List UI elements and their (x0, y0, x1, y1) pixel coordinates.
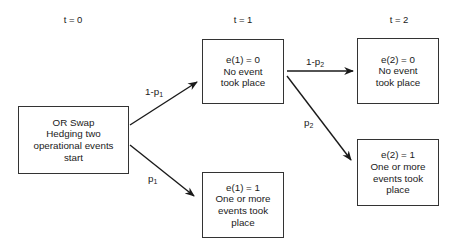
node-text-line: operational events (33, 140, 113, 152)
node-text-line: OR Swap (33, 117, 113, 129)
node-text-line: place (371, 184, 426, 196)
node-e1-0: e(1) = 0 No event took place (202, 39, 284, 104)
edge-label-sub: 2 (309, 122, 313, 129)
edge-label-p1: p1 (148, 173, 157, 185)
node-text-line: Hedging two (33, 128, 113, 140)
edge-label-1-p1: 1-p1 (145, 86, 163, 98)
node-text-line: e(1) = 0 (221, 54, 266, 66)
edge-label-sub: 1 (159, 91, 163, 98)
arrow-e1-0-to-e2-1 (287, 76, 351, 160)
node-start: OR Swap Hedging two operational events s… (18, 106, 129, 174)
node-text-line: No event (376, 65, 421, 77)
node-text-line: events took (371, 173, 426, 185)
edge-label-base: 1-p (145, 86, 159, 97)
node-text-line: start (33, 152, 113, 164)
node-text-line: e(1) = 1 (216, 182, 271, 194)
node-text-line: took place (376, 77, 421, 89)
edge-label-base: 1-p (306, 56, 320, 67)
node-e2-0: e(2) = 0 No event took place (357, 38, 439, 104)
node-text-line: One or more (371, 161, 426, 173)
arrow-start-to-e1-0 (130, 82, 197, 125)
node-text-line: place (216, 217, 271, 229)
node-text-line: e(2) = 1 (371, 149, 426, 161)
node-e2-1: e(2) = 1 One or more events took place (357, 139, 439, 206)
edge-label-1-p2: 1-p2 (306, 56, 324, 68)
arrow-start-to-e1-1 (130, 145, 194, 196)
node-text-line: took place (221, 77, 266, 89)
node-text-line: No event (221, 66, 266, 78)
node-text-line: One or more (216, 193, 271, 205)
edge-label-sub: 2 (320, 61, 324, 68)
edge-label-sub: 1 (153, 178, 157, 185)
node-e1-1: e(1) = 1 One or more events took place (202, 172, 284, 238)
node-text-line: e(2) = 0 (376, 54, 421, 66)
node-text-line: events took (216, 205, 271, 217)
edge-label-p2: p2 (304, 117, 313, 129)
